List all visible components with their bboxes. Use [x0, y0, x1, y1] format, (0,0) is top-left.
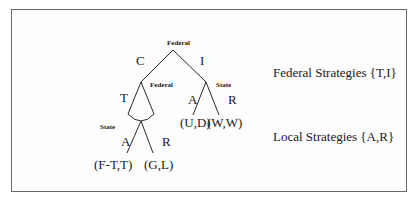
action-label-right-r: R [228, 93, 237, 106]
action-label-state-r: R [162, 135, 171, 148]
action-label-c: C [136, 54, 145, 67]
action-label-t: T [120, 91, 128, 104]
action-label-right-a: A [188, 93, 197, 106]
action-label-i: I [200, 54, 204, 67]
right-node-label: State [216, 82, 231, 89]
payoff-f-t-t: (F-T,T) [94, 158, 132, 171]
federal-strategies-legend: Federal Strategies {T,I} [273, 66, 397, 79]
root-node-label: Federal [167, 40, 190, 47]
payoff-g-l: (G,L) [144, 158, 173, 171]
info-set-label: State [100, 124, 115, 131]
game-tree-lines [0, 0, 417, 203]
action-label-state-a: A [121, 135, 130, 148]
local-strategies-legend: Local Strategies {A,R} [273, 130, 394, 143]
left-node-label: Federal [150, 82, 173, 89]
payoff-w-w: (W,W) [207, 116, 242, 129]
